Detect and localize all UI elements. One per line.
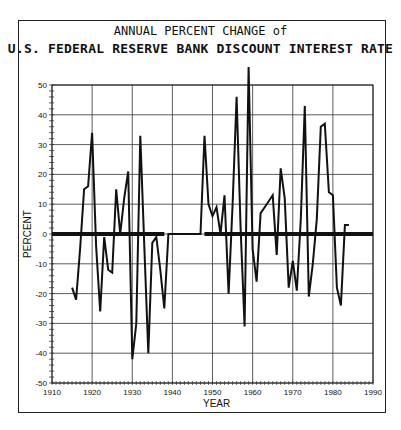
x-tick-labels: 191019201930194019501960197019801990 <box>43 388 382 397</box>
line-chart: -50-40-30-20-1001020304050 1910192019301… <box>0 0 401 430</box>
y-axis-label: PERCENT <box>22 210 33 258</box>
y-tick-label: -20 <box>35 290 47 299</box>
y-tick-label: -50 <box>35 379 47 388</box>
y-tick-label: -40 <box>35 349 47 358</box>
x-tick-label: 1930 <box>123 388 141 397</box>
y-tick-label: 10 <box>38 200 47 209</box>
y-tick-label: 50 <box>38 81 47 90</box>
y-tick-label: 30 <box>38 141 47 150</box>
y-tick-label: -30 <box>35 319 47 328</box>
data-series-line <box>72 67 349 359</box>
x-tick-label: 1960 <box>244 388 262 397</box>
x-tick-label: 1950 <box>204 388 222 397</box>
y-tick-label: 20 <box>38 170 47 179</box>
x-tick-label: 1940 <box>163 388 181 397</box>
x-tick-label: 1990 <box>364 388 382 397</box>
x-tick-label: 1910 <box>43 388 61 397</box>
x-axis-label: YEAR <box>203 398 230 409</box>
y-tick-label: -10 <box>35 260 47 269</box>
x-tick-label: 1980 <box>324 388 342 397</box>
y-tick-labels: -50-40-30-20-1001020304050 <box>35 81 47 388</box>
y-tick-label: 40 <box>38 111 47 120</box>
x-tick-label: 1920 <box>83 388 101 397</box>
x-tick-label: 1970 <box>284 388 302 397</box>
y-tick-label: 0 <box>43 230 48 239</box>
